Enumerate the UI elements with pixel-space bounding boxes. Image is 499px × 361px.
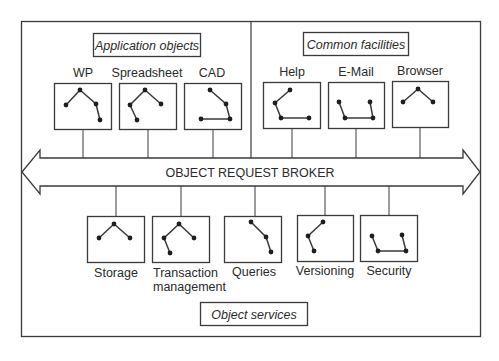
object-label: Browser — [397, 64, 443, 78]
object-box — [361, 216, 418, 262]
object-spreadsheet: Spreadsheet — [112, 66, 183, 130]
object-transaction-management: Transaction management — [153, 217, 227, 295]
object-graph-icon — [370, 233, 409, 254]
oma-diagram: Application objects Common facilities Ob… — [0, 0, 499, 361]
object-box — [55, 84, 112, 130]
group-label: Object services — [211, 308, 296, 322]
object-label-line2: management — [153, 280, 226, 294]
object-label: Transaction — [153, 266, 218, 280]
object-label: CAD — [199, 66, 225, 80]
object-label: Spreadsheet — [112, 66, 183, 80]
object-help: Help — [264, 65, 321, 129]
object-box — [298, 216, 354, 262]
group-object-services: Object services — [201, 303, 308, 326]
object-browser: Browser — [393, 64, 449, 128]
object-graph-icon — [97, 222, 133, 241]
object-wp: WP — [55, 66, 112, 130]
object-label: Versioning — [296, 264, 354, 278]
object-graph-icon — [199, 88, 233, 122]
bus-label: OBJECT REQUEST BROKER — [165, 166, 334, 180]
object-email: E-Mail — [329, 65, 385, 129]
object-graph-icon — [64, 88, 103, 123]
object-label: Queries — [232, 265, 276, 279]
object-storage: Storage — [88, 217, 145, 281]
group-label: Application objects — [94, 39, 199, 53]
object-graph-icon — [306, 220, 326, 254]
object-graph-icon — [273, 88, 312, 121]
object-queries: Queries — [225, 217, 282, 280]
group-common-facilities: Common facilities — [304, 33, 409, 56]
object-graph-icon — [337, 100, 376, 121]
object-box — [185, 84, 242, 130]
object-cad: CAD — [185, 66, 242, 130]
object-label: WP — [73, 66, 93, 80]
group-application-objects: Application objects — [94, 34, 201, 57]
object-box — [393, 82, 449, 128]
object-graph-icon — [401, 87, 436, 105]
object-graph-icon — [128, 88, 164, 123]
object-label: Storage — [94, 266, 138, 280]
object-box — [120, 84, 177, 130]
group-label: Common facilities — [307, 38, 406, 52]
object-versioning: Versioning — [296, 216, 354, 279]
object-graph-icon — [162, 222, 197, 256]
object-security: Security — [361, 216, 418, 279]
object-label: Help — [279, 65, 305, 79]
object-graph-icon — [249, 220, 274, 255]
object-label: E-Mail — [338, 65, 373, 79]
object-label: Security — [366, 264, 412, 278]
object-box — [329, 83, 385, 129]
